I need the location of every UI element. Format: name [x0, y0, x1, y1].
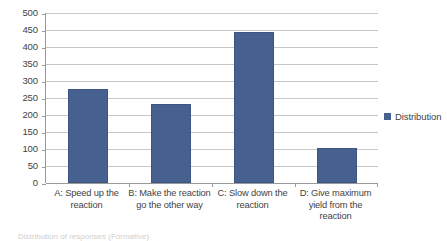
- legend-label-distribution: Distribution: [395, 112, 441, 122]
- y-tick-label-200: 200: [22, 110, 38, 120]
- chart-caption: Distribution of responses (Formative): [18, 232, 438, 241]
- y-tick-label-400: 400: [22, 42, 38, 52]
- y-tick-label-450: 450: [22, 25, 38, 35]
- plot-area: [45, 13, 378, 183]
- x-tickmark-4: [377, 183, 378, 187]
- x-axis-labels: A: Speed up the reaction B: Make the rea…: [45, 188, 377, 236]
- y-tick-label-50: 50: [28, 161, 38, 171]
- bar-category-b[interactable]: [151, 104, 191, 183]
- y-tick-label-100: 100: [22, 144, 38, 154]
- x-tickmark-2: [212, 183, 213, 187]
- bars-layer: [46, 13, 378, 183]
- x-tickmark-1: [129, 183, 130, 187]
- x-label-category-c: C: Slow down the reaction: [211, 188, 294, 211]
- x-label-category-a: A: Speed up the reaction: [45, 188, 128, 211]
- bar-category-d[interactable]: [317, 148, 357, 183]
- legend-swatch-icon: [384, 113, 391, 120]
- x-label-category-b: B: Make the reaction go the other way: [128, 188, 211, 211]
- bar-category-a[interactable]: [68, 89, 108, 183]
- y-tick-label-0: 0: [33, 178, 38, 188]
- x-label-category-d: D: Give maximum yield from the reaction: [294, 188, 377, 223]
- y-tick-label-300: 300: [22, 76, 38, 86]
- y-tick-label-500: 500: [22, 8, 38, 18]
- y-tick-label-250: 250: [22, 93, 38, 103]
- y-tick-label-350: 350: [22, 59, 38, 69]
- y-tickmark-0: [42, 184, 46, 185]
- bar-category-c[interactable]: [234, 32, 274, 183]
- x-tickmark-3: [295, 183, 296, 187]
- plot-wrapper: 500 450 400 350 300 250 200 150 100 50 0: [0, 0, 380, 190]
- y-tick-label-150: 150: [22, 127, 38, 137]
- chart-legend: Distribution: [384, 112, 441, 122]
- bar-chart: 500 450 400 350 300 250 200 150 100 50 0: [0, 0, 447, 241]
- y-axis: 500 450 400 350 300 250 200 150 100 50 0: [0, 0, 44, 190]
